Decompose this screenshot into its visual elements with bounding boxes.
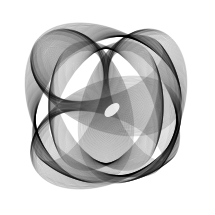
generative-line-art xyxy=(0,0,215,215)
